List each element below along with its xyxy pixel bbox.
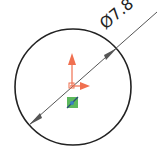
sketch-circle[interactable] (15, 29, 131, 145)
sketch-canvas[interactable] (0, 0, 166, 158)
dimension-arrow-upper (104, 48, 117, 60)
dimension-arrow-lower (29, 113, 42, 125)
diameter-dimension-line[interactable] (29, 12, 157, 125)
center-point-marker-icon[interactable] (67, 97, 78, 108)
origin-axes-icon (68, 53, 90, 90)
